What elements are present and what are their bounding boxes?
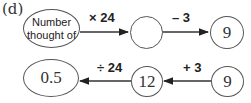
empty-circle — [130, 16, 163, 49]
op-divide: ÷ 24 — [97, 60, 122, 75]
result-value: 9 — [223, 23, 232, 43]
op-multiply: × 24 — [89, 10, 115, 25]
twelve-circle: 12 — [131, 66, 163, 97]
start-text-line1: Number — [27, 16, 76, 29]
twelve-value: 12 — [139, 72, 156, 92]
start-text-line2: thought of — [27, 29, 76, 42]
op-add: + 3 — [183, 60, 201, 75]
start-ellipse: Number thought of — [23, 9, 80, 48]
answer-value: 0.5 — [40, 68, 61, 88]
result-circle-top: 9 — [210, 16, 244, 49]
answer-ellipse: 0.5 — [23, 59, 79, 97]
start-circle-bottom: 9 — [211, 66, 244, 97]
start-value-bottom: 9 — [223, 72, 232, 92]
op-subtract: – 3 — [172, 10, 190, 25]
